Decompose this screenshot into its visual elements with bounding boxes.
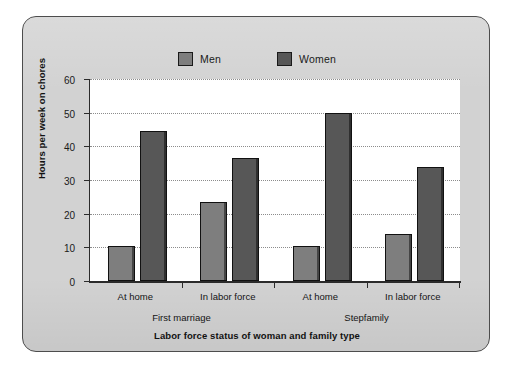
y-tick-label: 10 bbox=[64, 243, 75, 254]
bar-women-3[interactable] bbox=[325, 113, 352, 281]
y-tick-mark: 20 bbox=[84, 214, 90, 215]
bar-men-2[interactable] bbox=[200, 202, 227, 281]
bar-men-3[interactable] bbox=[293, 246, 320, 281]
x-axis-title: Labor force status of woman and family t… bbox=[23, 330, 491, 341]
figure-canvas: Men Women Hours per week on chores 01020… bbox=[0, 0, 511, 366]
y-axis-title: Hours per week on chores bbox=[36, 39, 47, 199]
y-tick-label: 60 bbox=[64, 75, 75, 86]
y-tick-label: 20 bbox=[64, 209, 75, 220]
y-tick-mark: 10 bbox=[84, 247, 90, 248]
x-separator-tick bbox=[274, 281, 275, 288]
y-tick-mark: 60 bbox=[84, 79, 90, 80]
y-tick-mark: 40 bbox=[84, 146, 90, 147]
x-axis-line bbox=[89, 281, 461, 283]
y-tick-label: 40 bbox=[64, 142, 75, 153]
x-separator-tick bbox=[367, 281, 368, 288]
bar-women-2[interactable] bbox=[232, 158, 259, 281]
bar-women-1[interactable] bbox=[140, 131, 167, 281]
y-tick-mark: 30 bbox=[84, 180, 90, 181]
x-group-label: Stepfamily bbox=[344, 312, 388, 323]
y-tick-mark: 50 bbox=[84, 113, 90, 114]
x-category-label: At home bbox=[118, 291, 153, 302]
bar-men-1[interactable] bbox=[108, 246, 135, 281]
x-category-label: In labor force bbox=[200, 291, 255, 302]
plot-area: 0102030405060 bbox=[89, 79, 460, 281]
bar-men-4[interactable] bbox=[385, 234, 412, 281]
gridline bbox=[90, 113, 460, 114]
plot-wrapper: Hours per week on chores 0102030405060 A… bbox=[23, 17, 491, 353]
chart-card: Men Women Hours per week on chores 01020… bbox=[22, 16, 490, 352]
x-separator-tick bbox=[459, 281, 460, 288]
y-tick-label: 50 bbox=[64, 108, 75, 119]
gridline bbox=[90, 79, 460, 80]
y-tick-label: 30 bbox=[64, 176, 75, 187]
x-separator-tick bbox=[182, 281, 183, 288]
y-tick-label: 0 bbox=[69, 277, 75, 288]
x-category-label: At home bbox=[303, 291, 338, 302]
bar-women-4[interactable] bbox=[417, 167, 444, 281]
x-category-label: In labor force bbox=[385, 291, 440, 302]
x-group-label: First marriage bbox=[152, 312, 211, 323]
